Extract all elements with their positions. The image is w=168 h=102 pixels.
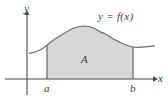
area-under-curve-figure: y x a b A y = f(x) (0, 0, 168, 102)
region-label-A: A (81, 54, 88, 65)
x-axis-label: x (158, 73, 163, 84)
function-label: y = f(x) (98, 11, 133, 22)
shaded-region-area (47, 26, 133, 79)
figure-canvas (0, 0, 168, 102)
upper-limit-label-b: b (130, 83, 136, 94)
lower-limit-label-a: a (44, 83, 50, 94)
y-axis-label: y (24, 3, 29, 14)
